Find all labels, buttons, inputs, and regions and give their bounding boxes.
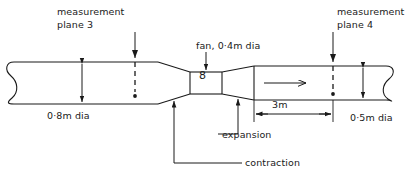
downstream-diameter-label: 0·5m dia	[350, 112, 393, 124]
contraction-top	[158, 62, 190, 72]
fan-label: fan, 0·4m dia	[196, 40, 260, 52]
break-line-icon-left	[7, 62, 17, 104]
measurement-plane-3-label-line1: measurement	[57, 6, 124, 17]
measurement-plane-3-label-line2: plane 3	[57, 19, 93, 30]
measurement-plane-4-label: measurement plane 4	[337, 6, 404, 31]
measurement-plane-4-label-line2: plane 4	[337, 19, 373, 30]
fan-symbol-label: 8	[199, 70, 206, 82]
measurement-plane-4-indicator	[331, 32, 335, 96]
contraction-label: contraction	[245, 157, 300, 169]
expansion-top	[222, 66, 254, 72]
upstream-diameter-label: 0·8m dia	[47, 110, 90, 122]
diagram-canvas: measurement plane 3 measurement plane 4 …	[0, 0, 416, 182]
measurement-plane-4-label-line1: measurement	[337, 6, 404, 17]
length-dimension-label: 3m	[272, 99, 288, 111]
break-line-icon-right	[383, 66, 393, 101]
measurement-plane-3-label: measurement plane 3	[57, 6, 124, 31]
expansion-label: expansion	[222, 129, 272, 141]
measurement-plane-3-indicator	[133, 32, 137, 98]
length-dimension	[254, 100, 333, 122]
